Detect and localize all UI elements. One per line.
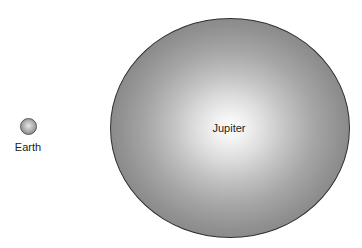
- earth-label: Earth: [15, 141, 41, 153]
- jupiter-label: Jupiter: [212, 122, 245, 134]
- earth-sphere: [20, 118, 37, 135]
